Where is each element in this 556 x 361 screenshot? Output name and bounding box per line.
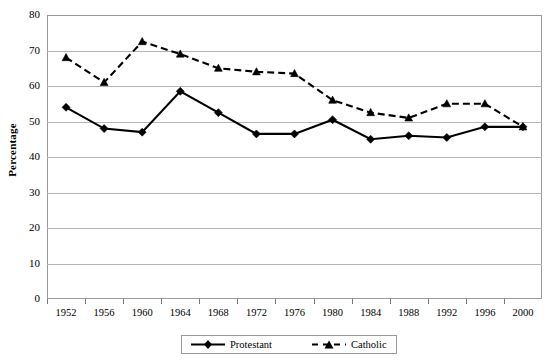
x-tick-label: 1980	[322, 307, 343, 318]
x-tick-label: 1976	[284, 307, 305, 318]
x-axis-tick-labels: 1952195619601964196819721976198019841988…	[0, 307, 556, 323]
y-axis-title-label: Percentage	[6, 123, 18, 177]
x-tick-label: 1992	[436, 307, 457, 318]
plot-canvas	[47, 15, 542, 299]
line-chart: Percentage 80706050403020100 19521956196…	[0, 0, 556, 361]
x-axis-ticks	[47, 299, 542, 305]
x-tick-label: 1988	[398, 307, 419, 318]
legend-label-catholic: Catholic	[351, 339, 387, 350]
series-layer	[62, 38, 527, 144]
y-tick-label: 50	[14, 116, 40, 127]
y-tick-label: 60	[14, 80, 40, 91]
legend-label-protestant: Protestant	[230, 339, 272, 350]
y-tick-label: 30	[14, 187, 40, 198]
x-tick-label: 1996	[474, 307, 495, 318]
x-tick-label: 1956	[94, 307, 115, 318]
legend-entry-catholic: Catholic	[312, 339, 387, 350]
y-tick-label: 10	[14, 258, 40, 269]
chart-legend: Protestant Catholic	[181, 335, 397, 354]
y-tick-label: 0	[14, 293, 40, 304]
x-tick-label: 1964	[170, 307, 191, 318]
y-tick-label: 40	[14, 151, 40, 162]
x-tick-label: 1968	[208, 307, 229, 318]
y-tick-label: 70	[14, 45, 40, 56]
x-tick-label: 1972	[246, 307, 267, 318]
legend-swatch-dashed-triangle-icon	[312, 339, 346, 350]
x-tick-label: 1960	[132, 307, 153, 318]
gridlines	[47, 52, 542, 265]
y-tick-label: 80	[14, 9, 40, 20]
legend-entry-protestant: Protestant	[191, 339, 272, 350]
y-tick-label: 20	[14, 222, 40, 233]
x-tick-label: 1952	[56, 307, 77, 318]
x-tick-label: 1984	[360, 307, 381, 318]
x-tick-label: 2000	[512, 307, 533, 318]
legend-swatch-solid-diamond-icon	[191, 339, 225, 350]
